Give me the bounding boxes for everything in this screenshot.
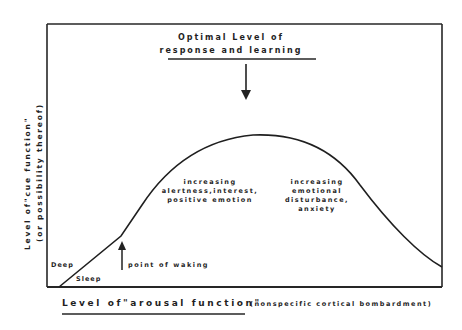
left-region-line1: increasing [150, 178, 270, 187]
deep-label: Deep [51, 262, 74, 269]
optimal-level-title-line1: Optimal Level of [0, 34, 462, 42]
sleep-label: Sleep [76, 276, 101, 283]
right-region-line3: disturbance, [262, 196, 372, 205]
optimal-level-title-line2: response and learning [0, 47, 462, 55]
x-axis-sublabel: (nonspecific cortical bombardment) [250, 301, 432, 308]
left-region-annotation: increasing alertness,interest, positive … [150, 178, 270, 205]
waking-arrow-icon [118, 241, 126, 270]
y-axis-label-line1: Level of"cue function" [24, 117, 32, 250]
left-region-line3: positive emotion [150, 196, 270, 205]
optimum-arrow-icon [241, 64, 251, 100]
left-region-line2: alertness,interest, [150, 187, 270, 196]
right-region-annotation: increasing emotional disturbance, anxiet… [262, 178, 372, 214]
y-axis-label-line2: (or possibility thereof) [36, 103, 44, 242]
right-region-line4: anxiety [262, 205, 372, 214]
right-region-line1: increasing [262, 178, 372, 187]
right-region-line2: emotional [262, 187, 372, 196]
arousal-performance-curve [59, 135, 442, 287]
x-axis-label: Level of"arousal function" [62, 299, 262, 308]
point-of-waking-label: point of waking [128, 262, 209, 269]
